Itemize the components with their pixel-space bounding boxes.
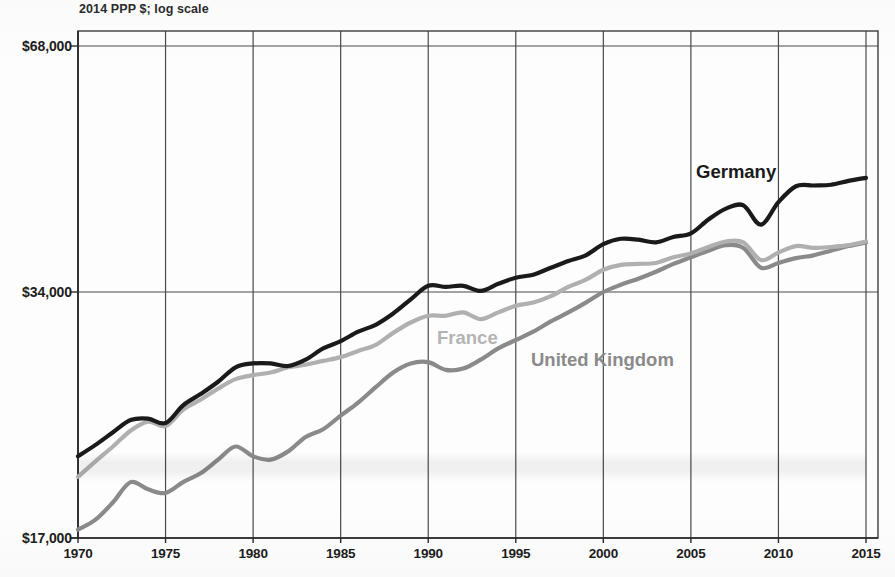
x-axis-label-1985: 1985 [313, 546, 369, 561]
y-axis-label-17000: $17,000 [0, 530, 72, 546]
x-axis-label-1970: 1970 [50, 546, 106, 561]
plot-area [0, 0, 895, 577]
series-label-france: France [437, 327, 498, 349]
plot-frame [70, 31, 878, 538]
chart-root: 2014 PPP $; log scale $68,000 $34,000 $1… [0, 0, 895, 577]
x-axis-label-2005: 2005 [663, 546, 719, 561]
y-axis-label-68000: $68,000 [0, 38, 72, 54]
x-axis-label-2000: 2000 [575, 546, 631, 561]
x-axis-label-1995: 1995 [488, 546, 544, 561]
x-axis-label-2010: 2010 [750, 546, 806, 561]
series-label-united-kingdom: United Kingdom [531, 349, 674, 371]
series-label-germany: Germany [696, 161, 776, 183]
x-axis-label-2015: 2015 [838, 546, 894, 561]
grid-lines [78, 31, 878, 538]
y-axis-label-34000: $34,000 [0, 284, 72, 300]
series-line-united-kingdom [78, 242, 866, 529]
series-line-france [78, 240, 866, 476]
x-axis-label-1975: 1975 [138, 546, 194, 561]
x-axis-label-1980: 1980 [225, 546, 281, 561]
chart-svg [0, 0, 895, 577]
x-axis-label-1990: 1990 [400, 546, 456, 561]
axis-ticks [70, 46, 866, 543]
data-series [78, 178, 866, 530]
